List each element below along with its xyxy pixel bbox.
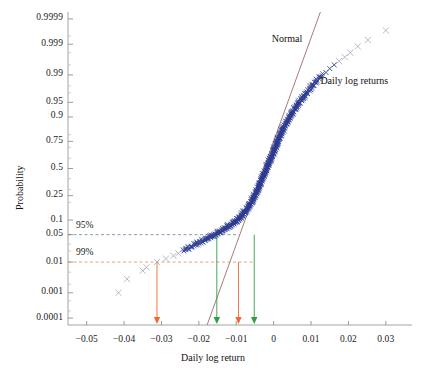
data-point-marker (355, 43, 361, 49)
y-tick-label: 0.95 (46, 96, 63, 106)
data-point-marker (336, 58, 342, 64)
data-point-marker (383, 27, 389, 33)
threshold-label: 99% (76, 247, 93, 257)
annotation-daily-log-returns: Daily log returns (320, 75, 388, 86)
data-point-marker (365, 37, 371, 43)
y-tick-label: 0.99 (46, 68, 63, 78)
data-point-marker (163, 256, 169, 262)
qq-plot-figure: 0.00010.0010.010.050.10.250.50.750.90.95… (0, 0, 426, 375)
data-points-group (115, 27, 389, 296)
data-point-marker (124, 276, 130, 282)
x-axis-title: Daily log return (0, 352, 426, 363)
y-tick-label: 0.05 (46, 228, 63, 238)
data-point-marker (115, 290, 121, 296)
y-tick-label: 0.999 (41, 38, 63, 48)
var-arrow-normal-95 (251, 317, 257, 324)
y-tick-label: 0.9999 (36, 12, 63, 22)
data-point-marker (342, 54, 348, 60)
var-arrow-empirical-95 (214, 317, 220, 324)
x-tick-label: 0.03 (356, 334, 416, 344)
annotation-normal: Normal (272, 33, 303, 44)
data-point-marker (347, 50, 353, 56)
y-tick-label: 0.1 (51, 214, 63, 224)
y-tick-label: 0.75 (46, 135, 63, 145)
y-tick-label: 0.25 (46, 189, 63, 199)
normal-probability-plot (0, 0, 426, 375)
threshold-label: 95% (76, 220, 93, 230)
data-point-marker (332, 62, 337, 67)
data-point-marker (327, 66, 332, 71)
y-axis-title: Probability (14, 166, 25, 210)
y-tick-label: 0.9 (51, 110, 63, 120)
data-point-marker (143, 264, 149, 270)
y-tick-label: 0.001 (41, 286, 63, 296)
y-tick-label: 0.5 (51, 162, 63, 172)
y-tick-label: 0.0001 (36, 312, 63, 322)
y-tick-label: 0.01 (46, 256, 63, 266)
var-arrow-empirical-99 (154, 317, 160, 324)
